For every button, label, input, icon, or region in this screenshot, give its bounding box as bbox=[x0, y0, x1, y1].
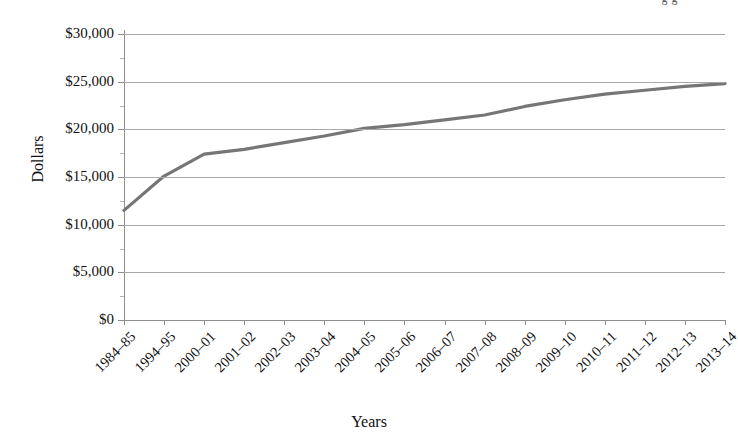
x-axis-tick bbox=[445, 320, 446, 325]
y-axis-minor-tick bbox=[120, 201, 124, 202]
x-axis-tick bbox=[404, 320, 405, 325]
y-axis-minor-tick bbox=[120, 106, 124, 107]
x-axis-tick bbox=[204, 320, 205, 325]
plot-area bbox=[124, 34, 725, 320]
y-axis-tick-label: $5,000 bbox=[28, 264, 114, 279]
y-axis-tick bbox=[118, 177, 124, 178]
y-axis-tick bbox=[118, 82, 124, 83]
x-axis-tick bbox=[725, 320, 726, 325]
x-axis-tick bbox=[685, 320, 686, 325]
y-axis-minor-tick bbox=[120, 296, 124, 297]
y-axis-tick-label: $25,000 bbox=[28, 74, 114, 89]
x-axis-tick bbox=[565, 320, 566, 325]
y-axis-tick-label: $30,000 bbox=[28, 26, 114, 41]
x-axis-tick bbox=[124, 320, 125, 325]
y-axis-tick bbox=[118, 34, 124, 35]
gridline bbox=[124, 82, 725, 83]
gridline bbox=[124, 177, 725, 178]
y-axis-tick-label: $0 bbox=[28, 312, 114, 327]
x-axis-tick bbox=[244, 320, 245, 325]
gridline bbox=[124, 272, 725, 273]
y-axis-minor-tick bbox=[120, 58, 124, 59]
y-axis-minor-tick bbox=[120, 153, 124, 154]
y-axis-title: Dollars bbox=[29, 99, 47, 219]
x-axis-tick bbox=[525, 320, 526, 325]
gridline bbox=[124, 225, 725, 226]
line-chart-figure: g g $0$5,000$10,000$15,000$20,000$25,000… bbox=[0, 0, 738, 446]
y-axis-tick bbox=[118, 272, 124, 273]
y-axis-tick bbox=[118, 129, 124, 130]
y-axis-minor-tick bbox=[120, 249, 124, 250]
x-axis-tick bbox=[364, 320, 365, 325]
gridline bbox=[124, 34, 725, 35]
y-axis-tick bbox=[118, 225, 124, 226]
x-axis-tick bbox=[485, 320, 486, 325]
x-axis-tick bbox=[324, 320, 325, 325]
x-axis-tick bbox=[645, 320, 646, 325]
x-axis-tick bbox=[284, 320, 285, 325]
x-axis-tick bbox=[164, 320, 165, 325]
y-axis-tick-labels: $0$5,000$10,000$15,000$20,000$25,000$30,… bbox=[20, 0, 114, 446]
gridline bbox=[124, 129, 725, 130]
x-axis-tick bbox=[605, 320, 606, 325]
gridline bbox=[124, 320, 725, 321]
x-axis-title: Years bbox=[0, 413, 738, 431]
